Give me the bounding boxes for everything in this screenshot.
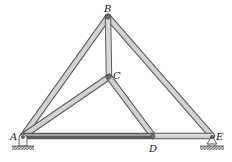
member-cd (109, 77, 153, 136)
joint-b-pin (106, 15, 110, 19)
member-ad (23, 135, 153, 136)
member-ab (23, 17, 108, 136)
joint-d-pin (151, 134, 155, 138)
ground-hatch-a (12, 146, 34, 150)
member-de (153, 135, 212, 136)
joint-c-pin (107, 75, 111, 79)
ground-hatch-e (200, 146, 224, 150)
truss-diagram: B C A D E (0, 0, 232, 162)
member-bc (108, 17, 109, 77)
label-d: D (148, 143, 157, 154)
label-c: C (113, 70, 121, 81)
label-b: B (103, 3, 111, 14)
member-be (108, 17, 212, 136)
label-a: A (9, 131, 17, 142)
member-ac (23, 77, 109, 136)
label-e: E (215, 131, 224, 142)
